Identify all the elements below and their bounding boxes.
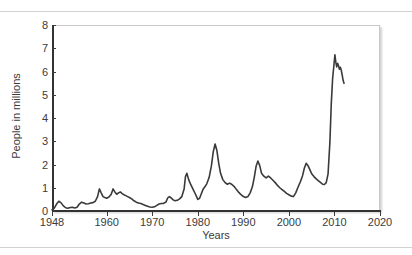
x-tick-label: 2020 xyxy=(368,217,392,228)
bottom-divider-rule xyxy=(0,247,412,248)
y-tick-mark xyxy=(52,95,56,96)
x-tick-label: 1948 xyxy=(40,217,64,228)
y-tick-label: 3 xyxy=(30,136,48,147)
y-tick-label: 8 xyxy=(30,20,48,31)
top-divider-rule xyxy=(0,11,412,12)
y-tick-mark xyxy=(52,25,56,26)
y-axis-label: People in millions xyxy=(10,56,22,176)
y-tick-mark xyxy=(52,141,56,142)
x-tick-label: 1970 xyxy=(140,217,164,228)
y-tick-label: 2 xyxy=(30,160,48,171)
y-tick-mark xyxy=(52,165,56,166)
x-tick-label: 2010 xyxy=(322,217,346,228)
y-tick-label: 1 xyxy=(30,183,48,194)
y-tick-label: 4 xyxy=(30,113,48,124)
y-tick-label: 6 xyxy=(30,67,48,78)
y-tick-mark xyxy=(52,48,56,49)
figure-page: People in millions Years 012345678194819… xyxy=(0,0,412,255)
x-tick-label: 1980 xyxy=(186,217,210,228)
y-tick-label: 7 xyxy=(30,43,48,54)
y-tick-mark xyxy=(52,188,56,189)
x-tick-label: 1960 xyxy=(94,217,118,228)
x-axis-label: Years xyxy=(52,229,380,241)
x-tick-label: 1990 xyxy=(231,217,255,228)
data-series-line xyxy=(52,25,380,211)
chart-figure: People in millions Years 012345678194819… xyxy=(0,14,412,246)
y-tick-mark xyxy=(52,72,56,73)
y-tick-label: 5 xyxy=(30,90,48,101)
x-tick-label: 2000 xyxy=(277,217,301,228)
y-tick-mark xyxy=(52,118,56,119)
